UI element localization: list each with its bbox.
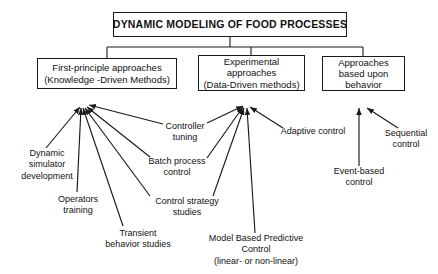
leaf-event-based-control-line1: Event-based bbox=[326, 166, 392, 177]
branch-experimental-line1: Experimental bbox=[224, 56, 279, 67]
arrow-model-based-predictive-control bbox=[247, 108, 255, 233]
leaf-control-strategy-studies-line1: Control strategy bbox=[146, 196, 228, 207]
arrow-batch-process-control-left bbox=[87, 107, 150, 157]
leaf-batch-process-control-line2: control bbox=[142, 167, 212, 178]
leaf-sequential-control: Sequential control bbox=[378, 128, 434, 151]
arrow-dynamic-simulator-development bbox=[46, 107, 80, 148]
leaf-operators-training: Operators training bbox=[45, 194, 111, 217]
branch-experimental-line2: approaches bbox=[227, 67, 277, 78]
arrow-batch-process-control-right bbox=[207, 107, 243, 158]
arrow-adaptive-control bbox=[250, 107, 283, 128]
arrow-controller-tuning-left bbox=[89, 105, 163, 124]
diagram-canvas: DYNAMIC MODELING OF FOOD PROCESSES First… bbox=[0, 0, 438, 274]
leaf-controller-tuning-line2: tuning bbox=[158, 132, 212, 143]
leaf-sequential-control-line1: Sequential bbox=[378, 128, 434, 139]
arrow-control-strategy-studies-right bbox=[213, 108, 244, 196]
leaf-adaptive-control-line1: Adaptive control bbox=[278, 126, 348, 137]
leaf-model-based-predictive-control-line1: Model Based Predictive bbox=[200, 233, 312, 244]
leaf-batch-process-control-line1: Batch process bbox=[142, 156, 212, 167]
leaf-model-based-predictive-control-line3: (linear- or non-linear) bbox=[200, 256, 312, 267]
leaf-control-strategy-studies: Control strategy studies bbox=[146, 196, 228, 219]
leaf-operators-training-line2: training bbox=[45, 205, 111, 216]
root-node-label: DYNAMIC MODELING OF FOOD PROCESSES bbox=[113, 18, 347, 30]
arrow-controller-tuning-right bbox=[207, 106, 243, 123]
arrow-sequential-control bbox=[367, 108, 398, 128]
leaf-controller-tuning-line1: Controller bbox=[158, 121, 212, 132]
branch-behavior-line3: behavior bbox=[345, 79, 381, 90]
branch-first-principle-line1: First-principle approaches bbox=[52, 62, 161, 73]
leaf-control-strategy-studies-line2: studies bbox=[146, 207, 228, 218]
leaf-event-based-control-line2: control bbox=[326, 177, 392, 188]
branch-node-behavior: Approaches based upon behavior bbox=[322, 56, 405, 91]
leaf-transient-behavior-studies: Transient behavior studies bbox=[92, 228, 184, 251]
leaf-controller-tuning: Controller tuning bbox=[158, 121, 212, 144]
branch-first-principle-line2: (Knowledge -Driven Methods) bbox=[44, 74, 170, 85]
leaf-model-based-predictive-control-line2: Control bbox=[200, 244, 312, 255]
leaf-transient-behavior-studies-line1: Transient bbox=[92, 228, 184, 239]
branch-experimental-line3: (Data-Driven methods) bbox=[203, 79, 299, 90]
branch-behavior-line2: based upon bbox=[339, 68, 389, 79]
leaf-operators-training-line1: Operators bbox=[45, 194, 111, 205]
arrow-control-strategy-studies-left bbox=[85, 108, 150, 196]
leaf-event-based-control: Event-based control bbox=[326, 166, 392, 189]
leaf-sequential-control-line2: control bbox=[378, 139, 434, 150]
root-node: DYNAMIC MODELING OF FOOD PROCESSES bbox=[113, 12, 347, 37]
branch-node-first-principle: First-principle approaches (Knowledge -D… bbox=[37, 58, 177, 89]
branch-behavior-line1: Approaches bbox=[338, 57, 389, 68]
leaf-dynamic-simulator-development-line2: simulator bbox=[8, 159, 86, 170]
leaf-dynamic-simulator-development-line1: Dynamic bbox=[8, 148, 86, 159]
leaf-dynamic-simulator-development-line3: development bbox=[8, 171, 86, 182]
branch-node-experimental: Experimental approaches (Data-Driven met… bbox=[198, 55, 305, 91]
leaf-model-based-predictive-control: Model Based Predictive Control (linear- … bbox=[200, 233, 312, 267]
leaf-adaptive-control: Adaptive control bbox=[278, 126, 348, 137]
leaf-dynamic-simulator-development: Dynamic simulator development bbox=[8, 148, 86, 182]
leaf-batch-process-control: Batch process control bbox=[142, 156, 212, 179]
leaf-transient-behavior-studies-line2: behavior studies bbox=[92, 239, 184, 250]
